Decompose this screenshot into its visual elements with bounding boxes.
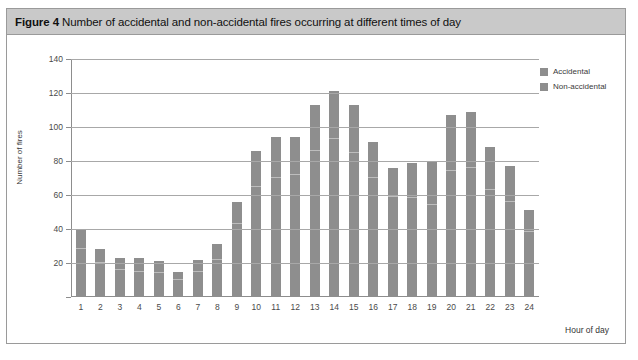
bar-hour-10: [251, 151, 261, 297]
legend-label-non-accidental: Non-accidental: [553, 82, 606, 91]
bar-segment-divider: [115, 269, 125, 270]
y-axis-tick: [66, 59, 71, 60]
bar-segment-divider: [251, 186, 261, 187]
y-axis-tick: [66, 93, 71, 94]
y-axis-tick: [66, 263, 71, 264]
bar-segment-divider: [290, 174, 300, 175]
y-axis-tick: [66, 297, 71, 298]
x-axis-tick-label: 2: [98, 302, 103, 312]
x-axis-tick-label: 3: [117, 302, 122, 312]
gridline: [71, 161, 539, 162]
bar-segment-divider: [329, 138, 339, 139]
legend-swatch-non-accidental: [540, 83, 548, 91]
y-axis-tick-label: 120: [49, 88, 63, 98]
y-axis-tick: [66, 195, 71, 196]
x-axis-tick-label: 11: [271, 302, 280, 312]
x-axis-tick-label: 23: [505, 302, 514, 312]
bar-hour-13: [310, 105, 320, 297]
x-axis-tick-label: 17: [388, 302, 397, 312]
bar-segment-divider: [407, 197, 417, 198]
gridline: [71, 195, 539, 196]
x-axis-tick-label: 22: [486, 302, 495, 312]
bar-segment-divider: [173, 279, 183, 280]
y-axis-tick: [66, 229, 71, 230]
legend-item-non-accidental: Non-accidental: [540, 82, 624, 91]
bar-hour-22: [485, 147, 495, 297]
x-axis-tick-label: 9: [234, 302, 239, 312]
bar-segment-divider: [76, 248, 86, 249]
x-axis-tick-label: 19: [427, 302, 436, 312]
gridline: [71, 127, 539, 128]
x-axis-tick-label: 13: [310, 302, 319, 312]
bar-segment-divider: [271, 177, 281, 178]
x-axis-tick-label: 4: [137, 302, 142, 312]
x-axis-tick-label: 14: [330, 302, 339, 312]
x-axis-tick-label: 24: [525, 302, 534, 312]
bar-segment-divider: [193, 271, 203, 272]
bar-segment-divider: [134, 271, 144, 272]
x-axis-title: Hour of day: [565, 325, 609, 335]
figure-frame: Figure 4 Number of accidental and non-ac…: [6, 8, 626, 344]
bar-segment-divider: [485, 189, 495, 190]
legend-item-accidental: Accidental: [540, 67, 624, 76]
x-axis-tick-label: 21: [466, 302, 475, 312]
bar-hour-24: [524, 210, 534, 297]
x-axis-tick-label: 7: [195, 302, 200, 312]
y-axis-tick-label: 140: [49, 54, 63, 64]
bar-segment-divider: [212, 259, 222, 260]
figure-title-bar: Figure 4 Number of accidental and non-ac…: [7, 9, 625, 35]
bar-hour-16: [368, 142, 378, 297]
bar-segment-divider: [349, 152, 359, 153]
gridline: [71, 229, 539, 230]
legend-swatch-accidental: [540, 68, 548, 76]
bar-hour-9: [232, 202, 242, 297]
x-axis-tick-label: 8: [215, 302, 220, 312]
bar-segment-divider: [232, 223, 242, 224]
bar-segment-divider: [505, 201, 515, 202]
y-axis-tick: [66, 161, 71, 162]
bar-hour-2: [95, 249, 105, 297]
bar-hour-8: [212, 244, 222, 297]
figure-label: Figure 4: [15, 16, 59, 28]
x-axis-tick-label: 1: [78, 302, 83, 312]
bar-segment-divider: [154, 272, 164, 273]
x-axis-tick-label: 6: [176, 302, 181, 312]
bar-segment-divider: [466, 167, 476, 168]
legend-label-accidental: Accidental: [553, 67, 590, 76]
x-axis-tick-label: 16: [369, 302, 378, 312]
figure-title: Figure 4 Number of accidental and non-ac…: [15, 16, 461, 28]
bar-hour-6: [173, 272, 183, 298]
gridline: [71, 263, 539, 264]
bars-layer: [71, 59, 539, 297]
bar-segment-divider: [368, 177, 378, 178]
bar-hour-5: [154, 261, 164, 297]
bar-segment-divider: [524, 231, 534, 232]
y-axis-tick-label: 20: [54, 258, 63, 268]
gridline: [71, 59, 539, 60]
gridline: [71, 93, 539, 94]
bar-segment-divider: [427, 204, 437, 205]
bar-segment-divider: [446, 170, 456, 171]
y-axis-tick-label: 80: [54, 156, 63, 166]
bar-hour-7: [193, 260, 203, 297]
bar-hour-20: [446, 115, 456, 297]
bar-hour-15: [349, 105, 359, 297]
x-axis-tick-label: 20: [447, 302, 456, 312]
y-axis-tick: [66, 127, 71, 128]
chart-canvas: Number of fires 204060801001201401234567…: [7, 35, 625, 343]
bar-segment-divider: [310, 150, 320, 151]
x-axis-tick-label: 15: [349, 302, 358, 312]
x-axis-tick-label: 10: [252, 302, 261, 312]
bar-hour-23: [505, 166, 515, 297]
bar-hour-17: [388, 168, 398, 297]
figure-caption: Number of accidental and non-accidental …: [62, 16, 461, 28]
plot-area: 2040608010012014012345678910111213141516…: [71, 59, 539, 297]
y-axis-title: Number of fires: [15, 108, 24, 208]
y-axis-tick-label: 40: [54, 224, 63, 234]
x-axis-tick-label: 12: [291, 302, 300, 312]
bar-hour-21: [466, 112, 476, 297]
chart-legend: Accidental Non-accidental: [540, 67, 624, 97]
y-axis-tick-label: 100: [49, 122, 63, 132]
y-axis-tick-label: 60: [54, 190, 63, 200]
x-axis-tick-label: 18: [408, 302, 417, 312]
